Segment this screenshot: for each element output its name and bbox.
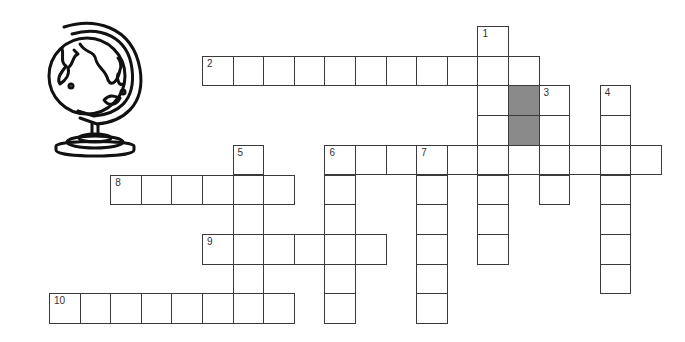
- crossword-cell[interactable]: [600, 204, 632, 235]
- crossword-cell[interactable]: [539, 115, 571, 146]
- crossword-cell[interactable]: [324, 175, 356, 206]
- clue-number: 8: [115, 177, 121, 189]
- crossword-cell[interactable]: [508, 56, 540, 87]
- clue-number: 7: [421, 147, 427, 159]
- crossword-cell[interactable]: [447, 56, 479, 87]
- crossword-cell[interactable]: [416, 234, 448, 265]
- crossword-cell[interactable]: [386, 56, 418, 87]
- crossword-cell[interactable]: [202, 293, 234, 324]
- clue-number: 1: [482, 28, 488, 40]
- crossword-cell[interactable]: [569, 145, 601, 176]
- crossword-cell[interactable]: [477, 145, 509, 176]
- crossword-cell[interactable]: [355, 56, 387, 87]
- crossword-cell[interactable]: [386, 145, 418, 176]
- crossword-cell[interactable]: [80, 293, 112, 324]
- crossword-cell[interactable]: 1: [477, 26, 509, 57]
- crossword-cell[interactable]: [233, 264, 265, 295]
- crossword-cell[interactable]: [233, 293, 265, 324]
- crossword-cell[interactable]: [600, 264, 632, 295]
- crossword-cell[interactable]: [355, 145, 387, 176]
- clue-number: 10: [54, 295, 65, 307]
- crossword-cell[interactable]: [202, 175, 234, 206]
- crossword-cell[interactable]: [600, 145, 632, 176]
- crossword-cell[interactable]: [416, 293, 448, 324]
- crossword-cell[interactable]: [263, 293, 295, 324]
- crossword-cell[interactable]: [600, 234, 632, 265]
- crossword-cell[interactable]: 5: [233, 145, 265, 176]
- crossword-cell[interactable]: [600, 115, 632, 146]
- crossword-cell[interactable]: [600, 175, 632, 206]
- crossword-cell[interactable]: [263, 175, 295, 206]
- crossword-cell[interactable]: [233, 175, 265, 206]
- clue-number: 4: [605, 87, 611, 99]
- crossword-cell[interactable]: [539, 175, 571, 206]
- crossword-cell[interactable]: 9: [202, 234, 234, 265]
- crossword-cell[interactable]: [294, 234, 326, 265]
- crossword-cell[interactable]: [141, 293, 173, 324]
- crossword-cell[interactable]: [355, 234, 387, 265]
- crossword-cell[interactable]: [630, 145, 662, 176]
- crossword-cell[interactable]: [324, 234, 356, 265]
- crossword-cell[interactable]: [294, 56, 326, 87]
- crossword-cell[interactable]: 8: [110, 175, 142, 206]
- crossword-cell[interactable]: [324, 264, 356, 295]
- crossword-cell[interactable]: 7: [416, 145, 448, 176]
- clue-number: 5: [238, 147, 244, 159]
- clue-number: 9: [207, 236, 213, 248]
- crossword-cell[interactable]: [508, 145, 540, 176]
- crossword-cell[interactable]: 10: [49, 293, 81, 324]
- crossword-cell[interactable]: 3: [539, 85, 571, 116]
- crossword-cell[interactable]: [141, 175, 173, 206]
- globe-icon: [22, 14, 172, 159]
- clue-number: 6: [329, 147, 335, 159]
- crossword-cell[interactable]: [171, 293, 203, 324]
- crossword-cell[interactable]: [233, 56, 265, 87]
- crossword-cell[interactable]: [416, 204, 448, 235]
- crossword-cell[interactable]: 2: [202, 56, 234, 87]
- crossword-cell[interactable]: [324, 204, 356, 235]
- crossword-cell[interactable]: [233, 234, 265, 265]
- crossword-cell[interactable]: [477, 85, 509, 116]
- crossword-cell[interactable]: [477, 115, 509, 146]
- blocked-cell: [508, 85, 540, 116]
- crossword-cell[interactable]: [447, 145, 479, 176]
- crossword-cell[interactable]: [416, 175, 448, 206]
- crossword-cell[interactable]: 4: [600, 85, 632, 116]
- crossword-cell[interactable]: [263, 56, 295, 87]
- blocked-cell: [508, 115, 540, 146]
- crossword-cell[interactable]: [416, 264, 448, 295]
- crossword-cell[interactable]: [539, 145, 571, 176]
- crossword-cell[interactable]: [477, 175, 509, 206]
- crossword-cell[interactable]: [477, 234, 509, 265]
- crossword-cell[interactable]: [110, 293, 142, 324]
- crossword-cell[interactable]: [324, 293, 356, 324]
- crossword-cell[interactable]: [477, 56, 509, 87]
- crossword-cell[interactable]: [263, 234, 295, 265]
- crossword-cell[interactable]: 6: [324, 145, 356, 176]
- clue-number: 3: [544, 87, 550, 99]
- crossword-cell[interactable]: [416, 56, 448, 87]
- clue-number: 2: [207, 58, 213, 70]
- crossword-cell[interactable]: [324, 56, 356, 87]
- crossword-cell[interactable]: [233, 204, 265, 235]
- crossword-cell[interactable]: [171, 175, 203, 206]
- crossword-cell[interactable]: [477, 204, 509, 235]
